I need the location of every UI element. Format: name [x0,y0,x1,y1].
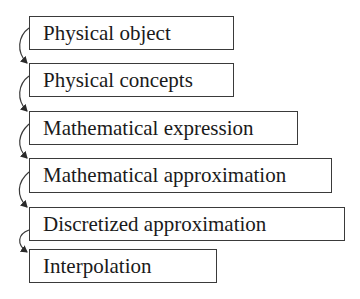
step-label: Interpolation [43,256,151,277]
step-label: Discretized approximation [43,214,266,235]
step-mathematical-approximation: Mathematical approximation [29,158,332,193]
step-label: Mathematical approximation [43,165,286,186]
step-mathematical-expression: Mathematical expression [29,111,298,145]
step-physical-concepts: Physical concepts [29,63,234,97]
arrow-4-to-5 [19,172,29,207]
step-interpolation: Interpolation [29,249,217,283]
arrow-2-to-3 [20,76,29,111]
step-label: Mathematical expression [43,118,254,139]
arrow-3-to-4 [20,124,29,158]
flow-diagram: Physical object Physical concepts Mathem… [0,0,360,299]
step-physical-object: Physical object [29,16,234,50]
step-label: Physical concepts [43,70,193,91]
arrow-5-to-6 [20,230,29,252]
arrow-1-to-2 [20,28,29,63]
step-discretized-approximation: Discretized approximation [29,207,345,241]
step-label: Physical object [43,23,171,44]
